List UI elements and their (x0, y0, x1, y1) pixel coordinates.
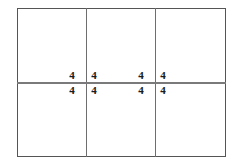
measure-label-left-top-left: 4 (67, 70, 77, 81)
geometry-figure: 4 4 4 4 4 4 4 4 (0, 0, 238, 168)
measure-label-left-top-right: 4 (89, 70, 99, 81)
measure-label-left-bottom-left: 4 (67, 85, 77, 96)
measure-label-left-bottom-right: 4 (89, 85, 99, 96)
measure-label-right-top-left: 4 (136, 70, 146, 81)
horizontal-divider-1 (17, 82, 226, 84)
measure-label-right-bottom-right: 4 (158, 85, 168, 96)
measure-label-right-bottom-left: 4 (136, 85, 146, 96)
measure-label-right-top-right: 4 (158, 70, 168, 81)
